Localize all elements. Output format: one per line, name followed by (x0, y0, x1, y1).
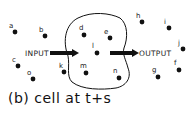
point-label-i: i (164, 18, 166, 26)
point-m (84, 71, 89, 76)
point-label-e: e (104, 28, 108, 36)
point-label-o: o (27, 69, 31, 77)
point-label-m: m (80, 62, 87, 70)
point-a (13, 30, 18, 35)
input-label: INPUT (25, 49, 49, 58)
point-label-d: d (79, 24, 83, 32)
point-label-h: h (136, 12, 140, 20)
point-j (181, 47, 186, 52)
point-label-c: c (12, 56, 16, 64)
point-label-k: k (59, 62, 64, 70)
point-k (62, 70, 67, 75)
point-f (177, 68, 182, 73)
point-l (95, 51, 100, 56)
point-label-f: f (174, 59, 177, 67)
point-h (140, 20, 145, 25)
input-arrow (50, 49, 79, 57)
point-d (82, 33, 87, 38)
point-b (43, 34, 48, 39)
point-i (167, 26, 172, 31)
point-label-a: a (9, 22, 13, 30)
point-label-l: l (92, 42, 94, 50)
point-e (108, 36, 113, 41)
output-label: OUTPUT (139, 49, 171, 58)
point-label-b: b (39, 26, 44, 34)
point-g (156, 75, 161, 80)
figure-caption: (b) cell at t+s (8, 90, 111, 106)
point-o (31, 77, 36, 82)
point-n (117, 76, 122, 81)
points-group: abcodelkmnhijfg (9, 12, 185, 81)
point-c (16, 64, 21, 69)
point-label-g: g (152, 66, 156, 74)
point-label-n: n (113, 67, 117, 75)
point-label-j: j (177, 39, 180, 47)
